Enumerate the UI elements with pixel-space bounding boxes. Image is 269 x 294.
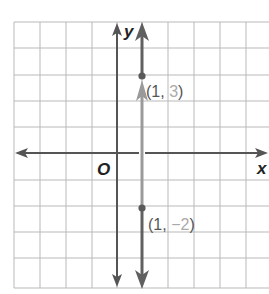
y-axis-label: y [123, 22, 135, 41]
point-label-close: ) [189, 216, 194, 233]
point-1-3 [138, 72, 145, 79]
origin-label: O [97, 160, 110, 179]
point-label-y-value: −2 [171, 216, 189, 233]
point-label-open: (1, [146, 83, 169, 100]
point-label-1-3: (1, 3) [146, 83, 183, 100]
point-label-close: ) [178, 83, 183, 100]
coordinate-plane: y x O (1, 3) (1, −2) [0, 0, 269, 294]
point-label-open: (1, [148, 216, 171, 233]
x-axis-label: x [256, 159, 268, 178]
point-label-1-neg2: (1, −2) [148, 216, 195, 233]
line-x-equals-1 [135, 22, 149, 289]
point-1-neg2 [138, 204, 145, 211]
y-axis [112, 23, 122, 287]
point-label-y-value: 3 [169, 83, 178, 100]
